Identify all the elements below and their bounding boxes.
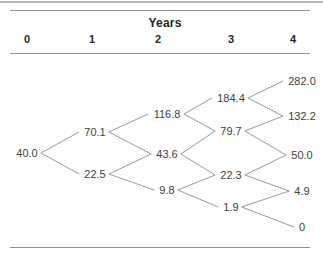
tree-node-year4-2: 50.0 <box>291 149 312 161</box>
tree-edge <box>178 175 215 190</box>
tree-edge <box>181 131 215 154</box>
tree-node-year2-2: 9.8 <box>159 184 174 196</box>
tree-edges <box>0 0 323 262</box>
binomial-tree-figure: Years 01234 40.070.122.5116.843.69.8184.… <box>0 0 323 262</box>
tree-node-year3-1: 79.7 <box>220 125 241 137</box>
tree-edge <box>248 98 283 116</box>
tree-edge <box>181 154 215 175</box>
tree-edge <box>245 155 286 175</box>
tree-node-year4-3: 4.9 <box>294 185 309 197</box>
tree-node-year3-0: 184.4 <box>217 92 245 104</box>
tree-edge <box>109 154 151 174</box>
tree-node-year1-1: 22.5 <box>84 168 105 180</box>
tree-edge <box>245 116 283 131</box>
tree-node-year4-1: 132.2 <box>288 110 316 122</box>
tree-edge <box>248 81 283 98</box>
tree-node-year4-4: 0 <box>299 221 305 233</box>
tree-edge <box>242 207 294 227</box>
tree-edge <box>184 98 212 114</box>
tree-node-year2-0: 116.8 <box>154 108 181 120</box>
tree-edge <box>242 191 290 207</box>
tree-node-year4-0: 282.0 <box>288 75 316 87</box>
tree-edge <box>41 153 79 174</box>
tree-edge <box>109 174 154 190</box>
tree-edge <box>245 131 286 155</box>
tree-edge <box>41 132 79 153</box>
tree-node-year0-0: 40.0 <box>16 147 37 159</box>
tree-edge <box>178 190 219 207</box>
tree-node-year3-2: 22.3 <box>220 169 241 181</box>
tree-edge <box>245 175 289 191</box>
tree-edge <box>109 114 148 132</box>
tree-node-year2-1: 43.6 <box>156 148 177 160</box>
tree-edge <box>109 132 151 154</box>
tree-edge <box>184 114 215 131</box>
bottom-rule <box>10 247 310 248</box>
tree-node-year1-0: 70.1 <box>84 126 105 138</box>
tree-node-year3-3: 1.9 <box>223 201 238 213</box>
